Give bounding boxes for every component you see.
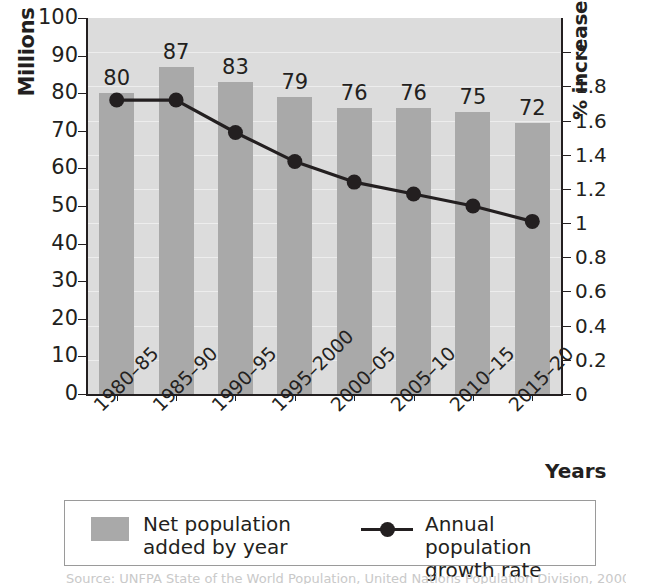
legend-swatch-icon [91,517,129,541]
x-axis-tick [532,396,533,401]
left-axis-tick-label: 70 [18,120,78,141]
plot-area [87,18,562,394]
bar-value-label: 76 [327,81,381,105]
right-axis-tick [563,155,571,156]
left-axis-tick-label: 50 [18,195,78,216]
bar [396,108,431,394]
bar [159,67,194,394]
right-axis-title: % increase per year [568,0,592,120]
x-axis-title: Years [545,459,606,483]
x-axis-tick [473,396,474,401]
left-axis-title: Millions [15,7,39,97]
left-axis-tick-label: 20 [18,308,78,329]
bar-value-label: 79 [268,70,322,94]
right-axis-tick [563,121,571,122]
bar-value-label: 87 [149,40,203,64]
left-axis-tick [78,281,86,282]
right-axis-tick [563,291,571,292]
right-axis-tick [563,189,571,190]
x-axis-tick [235,396,236,401]
bar [455,112,490,394]
x-axis-tick [176,396,177,401]
right-axis-tick [563,223,571,224]
left-axis-tick [78,93,86,94]
right-axis-tick [563,394,571,395]
bar-value-label: 76 [387,81,441,105]
right-axis-tick [563,257,571,258]
left-axis-tick-label: 30 [18,270,78,291]
x-axis-tick [117,396,118,401]
left-axis-tick [78,244,86,245]
left-axis-tick-label: 10 [18,345,78,366]
legend-line-marker-icon [361,517,413,541]
bar-value-label: 72 [505,96,559,120]
left-axis-tick [78,206,86,207]
x-axis-tick [354,396,355,401]
left-axis-tick [78,356,86,357]
left-axis-tick [78,319,86,320]
right-axis-tick [563,326,571,327]
bar [99,93,134,394]
source-caption: Source: UNFPA State of the World Populat… [66,571,626,584]
legend-item-bars: Net population added by year [91,513,291,559]
left-axis-line [86,18,88,395]
left-axis-tick-label: 0 [18,383,78,404]
right-axis-tick-label: 0.8 [575,247,621,267]
bar-value-label: 80 [90,66,144,90]
right-axis-tick-label: 0.2 [575,350,621,370]
right-axis-tick-label: 1 [575,213,621,233]
right-axis-tick-label: 1.4 [575,145,621,165]
legend-label-bars: Net population added by year [143,513,291,559]
left-axis-tick-label: 60 [18,157,78,178]
x-axis-tick [414,396,415,401]
bar [515,123,550,394]
left-axis-tick [78,131,86,132]
left-axis-tick [78,168,86,169]
x-axis-tick [295,396,296,401]
right-axis-tick-label: 0 [575,384,621,404]
left-axis-tick-label: 40 [18,233,78,254]
right-axis-tick-label: 0.6 [575,281,621,301]
bar [218,82,253,394]
left-axis-tick [78,18,86,19]
right-axis-line [561,18,563,395]
bar-value-label: 83 [208,55,262,79]
bar [277,97,312,394]
right-axis-tick-label: 0.4 [575,316,621,336]
bar-value-label: 75 [446,85,500,109]
chart-figure: 0102030405060708090100 Millions 00.20.40… [0,0,667,584]
left-axis-tick [78,56,86,57]
legend: Net population added by year Annual popu… [64,500,596,566]
left-axis-tick [78,394,86,395]
right-axis-tick-label: 1.2 [575,179,621,199]
